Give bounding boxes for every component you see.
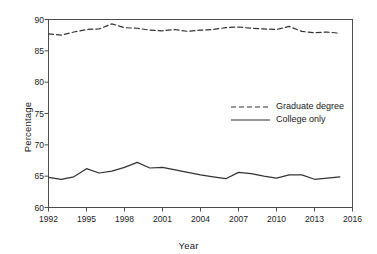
legend-item-label: Graduate degree bbox=[276, 101, 344, 111]
series-line bbox=[49, 24, 340, 35]
plot-area bbox=[0, 0, 377, 254]
legend-samples bbox=[231, 107, 270, 120]
chart-figure: Percentage Year 60657075808590 199219951… bbox=[0, 0, 377, 254]
legend-item-label: College only bbox=[276, 114, 326, 124]
series-line bbox=[49, 162, 340, 179]
